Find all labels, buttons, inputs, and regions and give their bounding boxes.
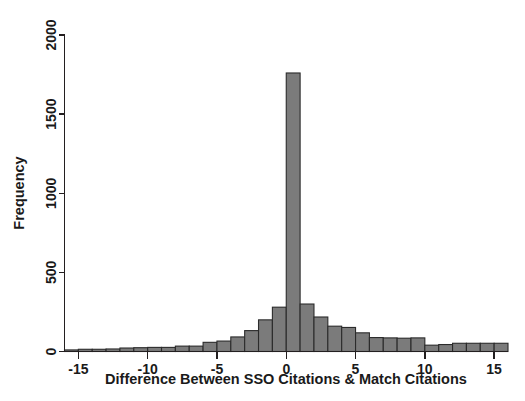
histogram-bar <box>383 338 397 352</box>
histogram-bar <box>245 331 259 352</box>
histogram-bar <box>494 343 508 351</box>
histogram-bar <box>259 320 273 352</box>
histogram-bar <box>300 304 314 351</box>
x-tick-label: 15 <box>486 361 502 377</box>
y-tick-label: 1000 <box>43 178 59 209</box>
histogram-bar <box>217 341 231 351</box>
y-axis-title: Frequency <box>11 156 27 229</box>
histogram-bar <box>328 326 342 351</box>
y-axis-ticks: 0500100015002000 <box>43 19 64 355</box>
histogram-bar <box>369 338 383 352</box>
y-tick-label: 0 <box>43 347 59 355</box>
histogram-bar <box>480 343 494 351</box>
histogram-bar <box>286 73 300 352</box>
histogram-bar <box>466 343 480 351</box>
y-tick-label: 1500 <box>43 98 59 129</box>
histogram-bar <box>411 338 425 352</box>
histogram-bar <box>439 345 453 352</box>
y-tick-label: 500 <box>43 261 59 285</box>
y-tick-label: 2000 <box>43 19 59 50</box>
histogram-bar <box>425 345 439 351</box>
histogram-bar <box>189 346 203 351</box>
histogram-chart: 0500100015002000 -15-10-5051015 Differen… <box>0 0 525 401</box>
x-axis-title: Difference Between SSO Citations & Match… <box>105 371 467 387</box>
histogram-bar <box>203 342 217 351</box>
histogram-bar <box>272 307 286 351</box>
histogram-bar <box>397 338 411 351</box>
x-tick-label: -15 <box>68 361 88 377</box>
figure-canvas: 0500100015002000 -15-10-5051015 Differen… <box>0 0 525 401</box>
bar-series <box>65 73 509 352</box>
histogram-bar <box>356 333 370 352</box>
histogram-bar <box>175 346 189 351</box>
histogram-bar <box>342 327 356 351</box>
histogram-bar <box>231 337 245 352</box>
histogram-bar <box>453 343 467 351</box>
histogram-bar <box>314 317 328 352</box>
